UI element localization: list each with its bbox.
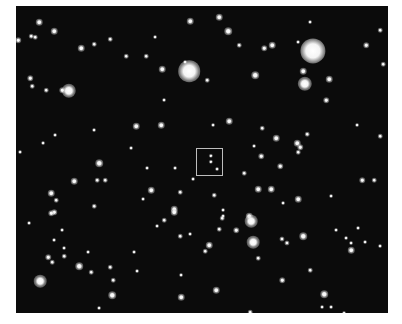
star bbox=[75, 262, 83, 270]
star bbox=[378, 134, 383, 139]
star bbox=[27, 75, 33, 81]
star bbox=[242, 171, 247, 176]
star bbox=[329, 194, 333, 198]
star bbox=[258, 153, 264, 159]
star bbox=[212, 193, 217, 198]
star bbox=[205, 78, 210, 83]
star bbox=[108, 291, 116, 299]
star bbox=[108, 37, 113, 42]
star bbox=[78, 45, 85, 52]
star bbox=[179, 273, 183, 277]
star bbox=[16, 37, 21, 43]
star bbox=[124, 54, 129, 59]
star bbox=[203, 249, 208, 254]
star bbox=[260, 126, 265, 131]
star bbox=[323, 97, 329, 103]
star bbox=[277, 163, 283, 169]
star bbox=[95, 178, 100, 183]
star bbox=[299, 232, 307, 240]
star bbox=[178, 294, 185, 301]
star bbox=[59, 87, 65, 93]
star bbox=[144, 54, 149, 59]
star bbox=[129, 146, 133, 150]
star bbox=[213, 287, 220, 294]
star bbox=[211, 123, 215, 127]
star bbox=[162, 218, 167, 223]
star bbox=[53, 133, 57, 137]
star bbox=[279, 277, 285, 283]
star bbox=[92, 42, 97, 47]
star bbox=[233, 227, 239, 233]
star bbox=[60, 228, 64, 232]
star bbox=[145, 166, 149, 170]
star bbox=[158, 122, 165, 129]
star bbox=[255, 186, 262, 193]
star bbox=[298, 77, 312, 91]
star bbox=[92, 204, 97, 209]
star bbox=[349, 241, 353, 245]
star bbox=[187, 18, 194, 25]
star bbox=[326, 76, 333, 83]
star bbox=[153, 35, 157, 39]
star bbox=[27, 221, 31, 225]
star bbox=[300, 38, 325, 63]
star bbox=[54, 198, 59, 203]
star bbox=[162, 98, 166, 102]
star bbox=[155, 224, 159, 228]
star bbox=[372, 178, 377, 183]
star bbox=[108, 265, 113, 270]
star bbox=[363, 42, 369, 48]
star bbox=[268, 186, 275, 193]
star bbox=[300, 68, 307, 75]
star bbox=[103, 178, 108, 183]
star bbox=[191, 177, 195, 181]
star bbox=[355, 123, 359, 127]
star bbox=[344, 236, 348, 240]
star bbox=[111, 278, 116, 283]
star bbox=[173, 166, 177, 170]
star bbox=[206, 242, 213, 249]
star bbox=[248, 310, 253, 313]
star bbox=[141, 197, 145, 201]
star bbox=[178, 60, 200, 82]
star bbox=[178, 234, 183, 239]
star bbox=[71, 178, 78, 185]
star bbox=[50, 260, 55, 265]
star bbox=[86, 250, 90, 254]
star bbox=[62, 246, 66, 250]
star bbox=[320, 305, 324, 309]
star bbox=[133, 123, 140, 130]
star bbox=[284, 240, 289, 245]
star bbox=[247, 236, 260, 249]
star bbox=[359, 177, 365, 183]
star bbox=[92, 128, 96, 132]
star bbox=[261, 45, 267, 51]
star bbox=[221, 208, 225, 212]
star bbox=[33, 35, 38, 40]
star bbox=[308, 268, 313, 273]
star bbox=[45, 254, 51, 260]
star bbox=[237, 43, 242, 48]
star bbox=[308, 20, 312, 24]
star bbox=[296, 150, 301, 155]
star bbox=[296, 40, 300, 44]
star bbox=[62, 254, 67, 259]
star bbox=[245, 215, 258, 228]
star bbox=[329, 305, 333, 309]
star bbox=[44, 88, 49, 93]
star bbox=[220, 216, 225, 221]
star bbox=[378, 28, 383, 33]
star bbox=[273, 135, 280, 142]
star bbox=[252, 144, 256, 148]
star bbox=[216, 14, 223, 21]
star bbox=[381, 62, 386, 67]
star bbox=[251, 71, 259, 79]
star bbox=[363, 240, 367, 244]
star bbox=[148, 187, 155, 194]
star bbox=[226, 118, 233, 125]
star bbox=[305, 132, 310, 137]
star bbox=[18, 150, 22, 154]
star bbox=[188, 232, 192, 236]
star bbox=[256, 256, 261, 261]
star bbox=[295, 196, 302, 203]
